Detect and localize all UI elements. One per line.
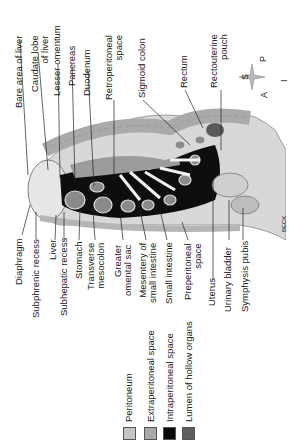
label-subphrenic-recess: Subphrenic recess [31, 239, 41, 318]
legend-swatch-peritoneum [123, 427, 136, 440]
label-sigmoid-colon: Sigmoid colon [137, 38, 147, 98]
label-mesentery-of-small-intestine: Mesentery of small intestine [138, 243, 158, 303]
legend-label-intraperitoneal-space: Intraperitoneal space [164, 333, 175, 422]
legend-label-peritoneum: Peritoneum [123, 373, 134, 422]
legend-label-extraperitoneal-space: Extraperitoneal space [145, 330, 156, 422]
label-rectouterine-pouch: Rectouterine pouch [209, 34, 229, 88]
label-greater-omental-sac: Greater omental sac [113, 245, 133, 296]
label-rectum: Rectum [179, 55, 189, 88]
label-urinary-bladder: Urinary bladder [223, 247, 233, 312]
label-bare-area-of-liver: Bare area of liver [14, 36, 24, 108]
label-lesser-omentum: Lesser omentum [52, 25, 62, 96]
label-liver: Liver [48, 239, 58, 260]
compass-s: S [240, 74, 250, 80]
label-symphysis-pubis: Symphysis pubis [240, 241, 250, 312]
label-uterus: Uterus [207, 278, 217, 306]
label-subhepatic-recess: Subhepatic recess [59, 238, 69, 316]
label-small-intestine: Small intestine [164, 242, 174, 304]
legend-swatch-intraperitoneal-space [163, 427, 176, 440]
label-duodenum: Duodenum [82, 50, 92, 96]
legend-swatch-lumen-of-hollow-organs [182, 427, 195, 440]
label-pancreas: Pancreas [67, 46, 77, 86]
label-preperitoneal-space: Preperitoneal space [183, 243, 203, 300]
label-caudate-lobe-of-liver: Caudate lobe of liver [30, 35, 50, 92]
compass-a: A [259, 92, 269, 98]
label-stomach: Stomach [74, 242, 84, 280]
illustrator-signature: BECK [279, 216, 289, 232]
label-retroperitoneal-space: Retroperitoneal space [104, 35, 124, 100]
legend-label-lumen-of-hollow-organs: Lumen of hollow organs [183, 321, 194, 422]
label-diaphragm: Diaphragm [14, 239, 24, 285]
compass-p: P [258, 56, 268, 62]
compass-i: I [279, 79, 289, 82]
legend-swatch-extraperitoneal-space [144, 427, 157, 440]
label-transverse-mesocolon: Transverse mesocolon [86, 243, 106, 290]
